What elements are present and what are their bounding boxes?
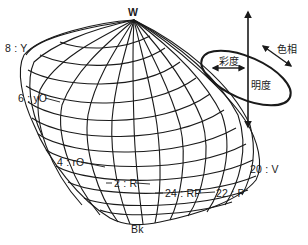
- label-hue-20-v: 20 : V: [250, 164, 279, 175]
- label-hue-8-y: 8 : Y: [5, 43, 27, 54]
- legend-inset: [194, 12, 299, 127]
- label-hue-22-p: 22 : P: [216, 188, 245, 199]
- legend-lightness-label: 明度: [251, 80, 271, 91]
- label-white-apex: W: [128, 7, 138, 18]
- label-hue-4-ro: 4 : rO: [57, 157, 84, 168]
- color-solid-diagram: [0, 0, 308, 245]
- label-black-apex: Bk: [131, 224, 144, 235]
- label-hue-2-r: 2 : R: [114, 178, 137, 189]
- legend-chroma-label: 彩度: [219, 56, 239, 67]
- label-hue-6-yo: 6 : yO: [18, 93, 47, 104]
- label-hue-24-rp: 24 : RP: [165, 188, 201, 199]
- legend-hue-label: 色相: [277, 44, 297, 55]
